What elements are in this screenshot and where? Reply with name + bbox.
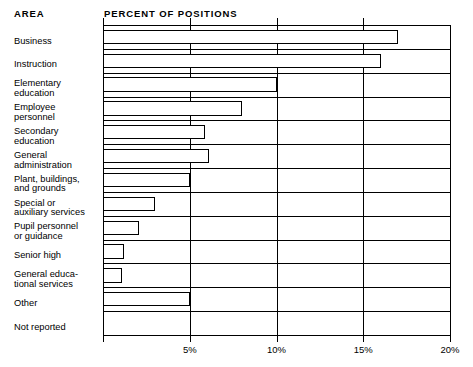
category-label: Instruction — [14, 60, 104, 70]
category-label: General administration — [14, 151, 104, 171]
row-separator — [103, 120, 450, 121]
category-label: Not reported — [14, 323, 104, 333]
gridline-15pct — [363, 25, 364, 335]
x-tick-label: 5% — [183, 344, 197, 355]
top-tick-15pct — [363, 18, 364, 25]
category-label: Pupil personnel or guidance — [14, 222, 104, 242]
top-tick-10pct — [277, 18, 278, 25]
bar — [103, 149, 209, 163]
bar — [103, 221, 139, 235]
gridline-10pct — [277, 25, 278, 335]
category-label: Elementary education — [14, 79, 104, 99]
category-label: Secondary education — [14, 127, 104, 147]
row-separator — [103, 168, 450, 169]
row-separator — [103, 192, 450, 193]
row-separator — [103, 311, 450, 312]
row-separator — [103, 73, 450, 74]
chart-title: PERCENT OF POSITIONS — [104, 8, 238, 19]
category-label: General educa- tional services — [14, 270, 104, 290]
x-tick-15pct — [363, 335, 364, 342]
category-label: Business — [14, 37, 104, 47]
category-label: Special or auxiliary services — [14, 199, 104, 219]
column-header-area: AREA — [14, 8, 45, 19]
bar — [103, 173, 190, 187]
row-separator — [103, 97, 450, 98]
category-label: Plant, buildings, and grounds — [14, 175, 104, 195]
gridline-5pct — [190, 25, 191, 335]
x-tick-label: 15% — [354, 344, 373, 355]
bar — [103, 30, 398, 44]
x-tick-10pct — [277, 335, 278, 342]
x-tick-0pct — [103, 335, 104, 342]
plot-area — [103, 25, 450, 335]
bar — [103, 292, 190, 306]
row-separator — [103, 49, 450, 50]
category-label: Other — [14, 299, 104, 309]
row-separator — [103, 240, 450, 241]
bar — [103, 101, 242, 115]
row-separator — [103, 216, 450, 217]
bar — [103, 268, 122, 282]
gridline-20pct — [450, 25, 451, 335]
category-label: Employee personnel — [14, 103, 104, 123]
top-tick-5pct — [190, 18, 191, 25]
x-tick-20pct — [450, 335, 451, 342]
row-separator — [103, 287, 450, 288]
category-label-column: BusinessInstructionElementary educationE… — [14, 30, 102, 328]
x-tick-label: 20% — [440, 344, 459, 355]
row-separator — [103, 144, 450, 145]
row-separator — [103, 263, 450, 264]
category-label: Senior high — [14, 251, 104, 261]
bar — [103, 244, 124, 258]
x-tick-5pct — [190, 335, 191, 342]
bar — [103, 197, 155, 211]
x-tick-label: 10% — [267, 344, 286, 355]
top-tick-0pct — [103, 18, 104, 25]
bar — [103, 54, 381, 68]
row-separator — [103, 25, 450, 26]
bar-chart: AREA PERCENT OF POSITIONS BusinessInstru… — [0, 0, 473, 367]
bar — [103, 77, 277, 91]
bar — [103, 125, 205, 139]
